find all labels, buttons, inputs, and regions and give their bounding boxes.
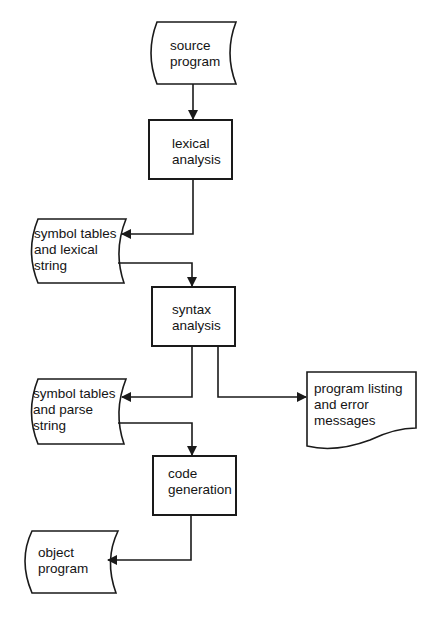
lexical-analysis-label: lexical analysis [172, 136, 221, 168]
object-program-label: object program [38, 545, 88, 577]
edge-codegen-to-object-program [108, 515, 191, 560]
syntax-analysis-label: syntax analysis [172, 302, 221, 334]
code-generation-label: code generation [168, 466, 232, 498]
symbol-tables-lexical-label: symbol tables and lexical string [34, 226, 117, 274]
edge-symbol-tables-to-syntax [118, 263, 192, 286]
edge-syntax-to-program-listing [218, 346, 306, 397]
edge-symbol-tables-parse-to-codegen [118, 423, 192, 455]
edge-lexical-to-symbol-tables [122, 179, 193, 234]
program-listing-label: program listing and error messages [314, 381, 403, 429]
edge-syntax-to-symbol-tables-parse [122, 346, 192, 397]
symbol-tables-parse-label: symbol tables and parse string [33, 386, 116, 434]
source-program-label: source program [170, 38, 220, 70]
